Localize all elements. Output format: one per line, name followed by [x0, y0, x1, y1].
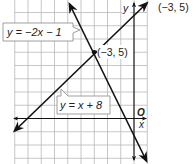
graph: (−3, 5) y = −2x − 1 y = x + 8 y O x (−3,… [0, 0, 196, 164]
intersection-dot [92, 50, 97, 55]
y-axis-label: y [122, 2, 129, 14]
label-line1-callout: y = −2x − 1 [3, 23, 80, 41]
intersection-label: (−3, 5) [97, 46, 128, 58]
label-line2-callout: y = x + 8 [57, 89, 110, 114]
label-line1: y = −2x − 1 [6, 26, 62, 38]
answer-label: (−3, 5) [158, 1, 189, 13]
origin-label: O [137, 107, 145, 118]
x-axis-label: x [138, 119, 145, 130]
label-line2: y = x + 8 [59, 99, 103, 111]
